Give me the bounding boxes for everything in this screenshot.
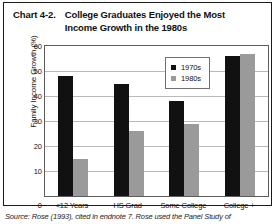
plot-area: 0102030405060 1970s 1980s: [44, 45, 269, 197]
bar-1970s: [169, 101, 184, 196]
bar-1970s: [225, 56, 240, 196]
bar-group: [101, 46, 157, 196]
chart-title-line-1: College Graduates Enjoyed the Most: [65, 9, 265, 22]
chart-figure: Chart 4-2. College Graduates Enjoyed the…: [0, 0, 275, 224]
bar-1970s: [114, 84, 129, 197]
bar-1980s: [73, 159, 88, 197]
y-tick-label: 20: [34, 142, 42, 151]
y-tick-label: 60: [34, 42, 42, 51]
x-tick-label: HS Grad: [113, 201, 141, 210]
y-tick-label: 30: [34, 117, 42, 126]
x-axis-tick-labels: <12 YearsHS GradSome CollegeCollege +: [44, 199, 269, 213]
chart-frame: Chart 4-2. College Graduates Enjoyed the…: [3, 2, 272, 206]
legend-swatch-1970s: [171, 65, 176, 70]
chart-legend: 1970s 1980s: [165, 57, 210, 89]
chart-title-text: College Graduates Enjoyed the Most Incom…: [65, 9, 265, 34]
chart-title-line-2: Income Growth in the 1980s: [65, 22, 265, 35]
y-tick-label: 40: [34, 92, 42, 101]
bar-1980s: [240, 54, 255, 197]
y-tick-label: 0: [38, 201, 42, 210]
bar-group: [45, 46, 101, 196]
y-tick-label: 10: [34, 167, 42, 176]
bar-group: [212, 46, 268, 196]
bar-series-container: [45, 46, 268, 196]
x-tick-label: Some College: [160, 201, 206, 210]
x-tick-label: College +: [224, 201, 255, 210]
x-tick-label: <12 Years: [56, 201, 89, 210]
bar-1980s: [184, 124, 199, 197]
legend-label-1970s: 1970s: [181, 63, 201, 72]
legend-item-1980s: 1980s: [171, 73, 201, 84]
y-tick-label: 50: [34, 67, 42, 76]
chart-title: Chart 4-2. College Graduates Enjoyed the…: [4, 9, 273, 34]
y-axis-label: Family Income Growth (%): [29, 7, 38, 157]
bar-1970s: [58, 76, 73, 196]
source-note: Source: Rose (1993), cited in endnote 7.…: [5, 212, 271, 222]
legend-item-1970s: 1970s: [171, 62, 201, 73]
bar-1980s: [129, 131, 144, 196]
legend-swatch-1980s: [171, 76, 176, 81]
legend-label-1980s: 1980s: [181, 74, 201, 83]
